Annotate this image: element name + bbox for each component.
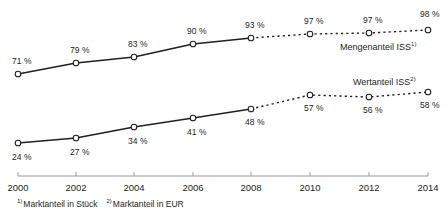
x-axis-tick-label: 2012 <box>358 183 379 193</box>
value-label: 71 % <box>12 57 32 66</box>
value-label: 90 % <box>187 27 207 36</box>
data-point-marker <box>131 54 137 60</box>
data-point-marker <box>307 92 313 98</box>
x-axis-tick-label: 2006 <box>182 183 203 193</box>
data-point-marker <box>425 89 431 95</box>
series-label-mengenanteil-footnote-marker: 1) <box>411 41 416 47</box>
value-label: 97 % <box>363 16 383 25</box>
value-label: 56 % <box>363 106 383 115</box>
footnote-2-marker: 2) <box>107 198 112 204</box>
data-point-marker <box>15 71 21 77</box>
footnote-2: 2)Marktanteil in EUR <box>107 199 184 209</box>
value-label: 97 % <box>304 17 324 26</box>
value-label: 98 % <box>420 10 440 19</box>
value-label: 34 % <box>128 137 148 146</box>
series-label-wertanteil-footnote-marker: 2) <box>410 76 415 82</box>
value-label: 79 % <box>70 46 90 55</box>
data-point-marker <box>73 135 79 141</box>
data-point-marker <box>248 106 254 112</box>
x-axis-tick-label: 2000 <box>7 183 28 193</box>
data-point-marker <box>190 41 196 47</box>
data-point-marker <box>15 140 21 146</box>
value-label: 24 % <box>12 153 32 162</box>
data-point-marker <box>248 35 254 41</box>
value-label: 48 % <box>245 118 265 127</box>
data-point-marker <box>425 27 431 33</box>
series-wertanteil-dashed-line <box>251 92 428 109</box>
chart-container: 71 % 79 % 83 % 90 % 93 % 97 % 97 % 98 % … <box>0 0 447 218</box>
x-axis-tick-label: 2014 <box>417 183 438 193</box>
value-label: 41 % <box>187 128 207 137</box>
value-label: 57 % <box>304 104 324 113</box>
x-axis-tick-label: 2008 <box>240 183 261 193</box>
data-point-marker <box>307 31 313 37</box>
series-label-wertanteil: Wertanteil ISS2) <box>353 78 416 87</box>
x-axis-tick-label: 2002 <box>65 183 86 193</box>
value-label: 27 % <box>70 148 90 157</box>
series-label-wertanteil-text: Wertanteil ISS <box>353 77 410 87</box>
data-point-marker <box>366 94 372 100</box>
data-point-marker <box>73 60 79 66</box>
footnote-1-marker: 1) <box>17 198 22 204</box>
data-point-marker <box>366 30 372 36</box>
footnote-1-text: Marktanteil in Stück <box>23 199 97 209</box>
value-label: 83 % <box>128 40 148 49</box>
x-axis-tick-label: 2010 <box>299 183 320 193</box>
footnote-2-text: Marktanteil in EUR <box>113 199 184 209</box>
x-axis-tick-label: 2004 <box>123 183 144 193</box>
data-point-marker <box>190 115 196 121</box>
value-label: 93 % <box>245 21 265 30</box>
footnote-1: 1)Marktanteil in Stück <box>17 199 98 209</box>
series-mengenanteil-dashed-line <box>251 30 428 38</box>
footnote-row: 1)Marktanteil in Stück2)Marktanteil in E… <box>17 200 193 209</box>
value-label: 58 % <box>420 101 440 110</box>
series-label-mengenanteil: Mengenanteil ISS1) <box>340 43 416 52</box>
data-point-marker <box>131 124 137 130</box>
series-label-mengenanteil-text: Mengenanteil ISS <box>340 42 411 52</box>
